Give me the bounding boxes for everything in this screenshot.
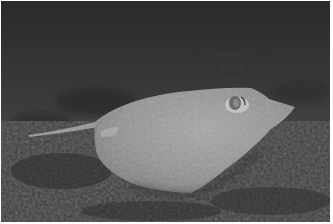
stingray-photo	[1, 1, 330, 222]
photo-frame	[1, 1, 330, 222]
